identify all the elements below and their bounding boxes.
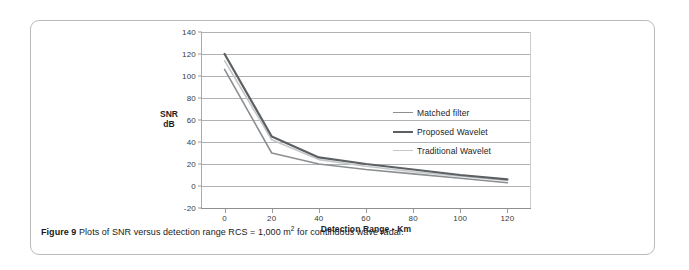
x-tick-label-60: 60 — [361, 214, 370, 223]
legend-item-matched-filter[interactable]: Matched filter — [393, 103, 543, 122]
legend-label: Proposed Wavelet — [417, 127, 488, 137]
y-tick-label-20: 20 — [187, 160, 196, 169]
x-tick-label-100: 100 — [453, 214, 467, 223]
figure-caption-label: Figure 9 — [41, 227, 76, 237]
x-tick-label-0: 0 — [222, 214, 227, 223]
x-tick-mark-60 — [366, 209, 367, 213]
legend-swatch-icon — [393, 150, 413, 151]
figure-card: SNR dB -20020406080100120140 02040608010… — [30, 20, 655, 255]
legend-swatch-icon — [393, 131, 413, 133]
legend-label: Traditional Wavelet — [417, 146, 491, 156]
figure-caption-tail: for continuous wave radar. — [294, 227, 403, 237]
x-tick-mark-80 — [413, 209, 414, 213]
figure-caption-text: Plots of SNR versus detection range RCS … — [79, 227, 291, 237]
x-tick-mark-40 — [319, 209, 320, 213]
y-tick-label-100: 100 — [182, 72, 196, 81]
chart-legend: Matched filterProposed WaveletTraditiona… — [393, 103, 543, 160]
y-tick-label-0: 0 — [191, 182, 196, 191]
x-tick-mark-20 — [272, 209, 273, 213]
x-tick-label-80: 80 — [408, 214, 417, 223]
legend-item-traditional-wavelet[interactable]: Traditional Wavelet — [393, 141, 543, 160]
x-tick-label-120: 120 — [500, 214, 514, 223]
y-tick-label--20: -20 — [184, 204, 196, 213]
x-tick-mark-100 — [460, 209, 461, 213]
y-tick-label-140: 140 — [182, 28, 196, 37]
figure-caption: Figure 9 Plots of SNR versus detection r… — [41, 227, 644, 239]
y-tick-label-80: 80 — [187, 94, 196, 103]
x-tick-mark-0 — [225, 209, 226, 213]
x-tick-mark-120 — [507, 209, 508, 213]
y-tick-label-40: 40 — [187, 138, 196, 147]
x-tick-label-40: 40 — [314, 214, 323, 223]
y-tick-label-120: 120 — [182, 50, 196, 59]
x-tick-label-20: 20 — [267, 214, 276, 223]
chart-region: SNR dB -20020406080100120140 02040608010… — [31, 21, 656, 221]
y-tick-label-60: 60 — [187, 116, 196, 125]
legend-swatch-icon — [393, 112, 413, 113]
y-axis-title-line2: dB — [149, 120, 189, 130]
y-axis-title: SNR dB — [149, 110, 189, 130]
legend-label: Matched filter — [417, 108, 469, 118]
legend-item-proposed-wavelet[interactable]: Proposed Wavelet — [393, 122, 543, 141]
